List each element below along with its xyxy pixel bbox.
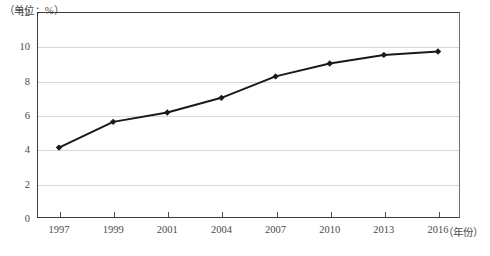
data-point-marker	[164, 109, 170, 115]
data-point-marker	[56, 144, 62, 150]
data-point-marker	[272, 73, 278, 79]
data-point-marker	[218, 95, 224, 101]
data-point-marker	[381, 52, 387, 58]
data-point-marker	[327, 60, 333, 66]
series-line	[59, 51, 438, 147]
line-chart: （单位：%） 024681012 19971999200120042007201…	[0, 0, 490, 256]
data-series	[0, 0, 490, 256]
data-point-marker	[110, 119, 116, 125]
data-point-marker	[435, 48, 441, 54]
